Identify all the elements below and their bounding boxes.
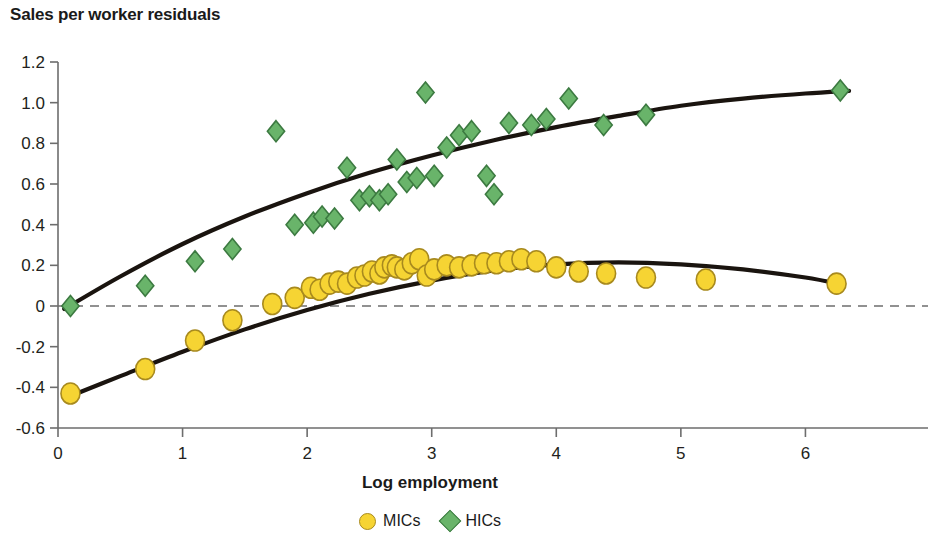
data-point-mics [223, 310, 242, 331]
data-point-mics [597, 263, 616, 284]
x-axis-tick-label: 0 [53, 444, 62, 463]
x-axis-tick-label: 2 [302, 444, 311, 463]
data-point-hics [62, 296, 79, 317]
data-point-hics [326, 208, 343, 229]
y-axis-tick-label: 0.4 [21, 216, 45, 235]
data-point-hics [338, 157, 355, 178]
y-axis-tick-label: 1.2 [21, 53, 45, 72]
data-point-hics [485, 184, 502, 205]
x-axis-tick-label: 1 [178, 444, 187, 463]
y-axis-tick-label: -0.4 [16, 378, 45, 397]
y-axis-tick-label: -0.2 [16, 338, 45, 357]
data-point-mics [61, 383, 80, 404]
data-point-mics [569, 261, 588, 282]
y-axis-tick-label: 0.6 [21, 175, 45, 194]
data-point-mics [136, 359, 155, 380]
data-point-mics [186, 330, 205, 351]
data-point-hics [478, 165, 495, 186]
y-axis-tick-label: 0 [36, 297, 45, 316]
chart-legend: MICs HICs [0, 512, 860, 530]
data-point-mics [827, 273, 846, 294]
x-axis-tick-label: 6 [801, 444, 810, 463]
circle-marker-icon [359, 513, 376, 530]
legend-item-mics[interactable]: MICs [359, 512, 420, 530]
data-point-mics [636, 267, 655, 288]
y-axis-tick-group: 1.21.00.80.60.40.20-0.2-0.4-0.6 [16, 53, 58, 438]
data-points-mics [61, 249, 846, 404]
y-axis-tick-label: 0.8 [21, 134, 45, 153]
legend-label-hics: HICs [465, 512, 501, 530]
data-point-mics [547, 257, 566, 278]
data-point-hics [560, 88, 577, 109]
x-axis-label: Log employment [0, 473, 860, 493]
x-axis-tick-label: 5 [676, 444, 685, 463]
data-point-mics [263, 293, 282, 314]
data-point-hics [186, 251, 203, 272]
data-point-hics [417, 82, 434, 103]
x-axis-tick-label: 4 [552, 444, 561, 463]
fit-curve-mics [64, 262, 843, 398]
y-axis-tick-label: -0.6 [16, 419, 45, 438]
data-point-mics [527, 251, 546, 272]
data-point-hics [500, 113, 517, 134]
data-point-hics [426, 165, 443, 186]
data-point-hics [637, 104, 654, 125]
data-point-mics [696, 269, 715, 290]
data-point-hics [137, 275, 154, 296]
scatter-plot-canvas: 1.21.00.80.60.40.20-0.2-0.4-0.6 0123456 [0, 0, 928, 470]
data-point-hics [267, 121, 284, 142]
diamond-marker-icon [439, 510, 462, 533]
data-point-hics [832, 80, 849, 101]
data-points-hics [62, 80, 849, 317]
y-axis-tick-label: 1.0 [21, 94, 45, 113]
chart-title: Sales per worker residuals [10, 5, 220, 25]
x-axis-tick-label: 3 [427, 444, 436, 463]
x-axis-tick-group: 0123456 [53, 428, 810, 463]
y-axis-tick-label: 0.2 [21, 256, 45, 275]
chart-figure: Sales per worker residuals 1.21.00.80.60… [0, 0, 928, 543]
legend-label-mics: MICs [383, 512, 420, 530]
data-point-hics [286, 214, 303, 235]
data-point-hics [224, 239, 241, 260]
legend-item-hics[interactable]: HICs [442, 512, 501, 530]
